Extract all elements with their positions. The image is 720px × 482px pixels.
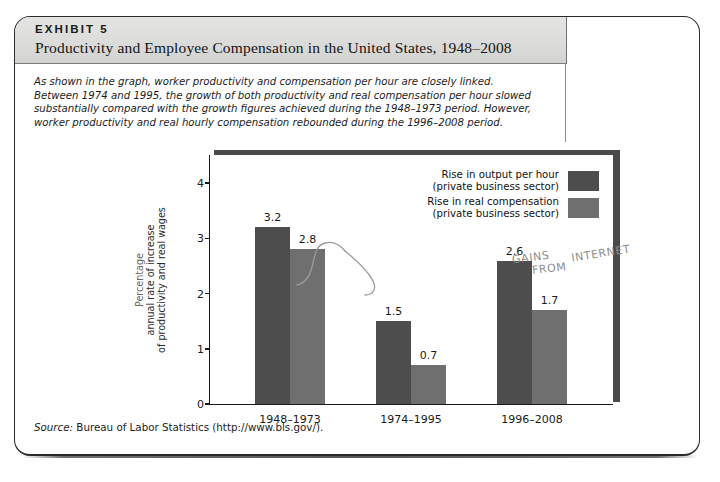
legend-label-line-2: (private business sector) [433, 181, 559, 193]
bar-output-per-hour-2: 1.5 [376, 321, 411, 404]
legend-item-output-per-hour: Rise in output per hour (private busines… [427, 169, 599, 192]
y-tick-label-4: 4 [197, 177, 204, 190]
y-tick-label-2: 2 [197, 287, 204, 300]
y-axis-title-line-3: of productivity and real wages [156, 185, 167, 375]
y-axis-title-line-2: annual rate of increase [145, 185, 156, 375]
source-line: Source: Bureau of Labor Statistics (http… [34, 421, 323, 433]
legend-label-line-1: Rise in real compensation [427, 196, 559, 208]
bar-value-label: 2.8 [299, 233, 317, 246]
bar-group-1948-1973: 3.2 2.8 1948–1973 [255, 155, 325, 404]
chart-plot-area: Percentage annual rate of increase of pr… [209, 155, 613, 405]
x-tick-label-3: 1996–2008 [501, 413, 563, 426]
intro-paragraph: As shown in the graph, worker productivi… [34, 75, 540, 129]
legend-label-line-2: (private business sector) [427, 208, 559, 220]
y-axis-title: Percentage annual rate of increase of pr… [134, 185, 167, 375]
bar-real-compensation-1: 2.8 [290, 249, 325, 404]
bar-value-label: 1.5 [385, 305, 403, 318]
page-footer-mark: · [0, 470, 720, 479]
bar-real-compensation-2: 0.7 [411, 365, 446, 404]
bar-value-label: 2.6 [506, 245, 524, 258]
bar-output-per-hour-1: 3.2 [255, 227, 290, 404]
exhibit-card: EXHIBIT 5 Productivity and Employee Comp… [14, 16, 700, 456]
y-tick-label-0: 0 [197, 398, 204, 411]
bar-value-label: 0.7 [420, 349, 438, 362]
legend-label-line-1: Rise in output per hour [433, 169, 559, 181]
legend-swatch-output-per-hour [568, 171, 599, 191]
y-axis-title-line-1: Percentage [134, 185, 145, 375]
legend-label-real-compensation: Rise in real compensation (private busin… [427, 196, 559, 219]
bar-chart: Percentage annual rate of increase of pr… [200, 150, 620, 410]
source-text: Bureau of Labor Statistics (http://www.b… [76, 421, 323, 433]
exhibit-title: Productivity and Employee Compensation i… [35, 39, 512, 57]
chart-legend: Rise in output per hour (private busines… [427, 169, 599, 219]
legend-label-output-per-hour: Rise in output per hour (private busines… [433, 169, 559, 192]
exhibit-header-band: EXHIBIT 5 Productivity and Employee Comp… [15, 17, 567, 64]
legend-swatch-real-compensation [568, 198, 599, 218]
source-label: Source: [34, 421, 73, 433]
exhibit-label: EXHIBIT 5 [35, 23, 109, 35]
legend-item-real-compensation: Rise in real compensation (private busin… [427, 196, 599, 219]
y-tick-label-3: 3 [197, 232, 204, 245]
bar-value-label: 1.7 [541, 294, 559, 307]
bar-real-compensation-3: 1.7 [532, 310, 567, 404]
x-tick-label-2: 1974–1995 [380, 413, 442, 426]
bar-value-label: 3.2 [264, 211, 282, 224]
bar-output-per-hour-3: 2.6 [497, 261, 532, 405]
y-tick-label-1: 1 [197, 342, 204, 355]
